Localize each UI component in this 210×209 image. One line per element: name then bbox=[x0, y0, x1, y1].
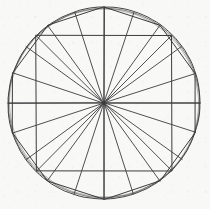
spoke-225deg bbox=[36, 103, 104, 171]
spoke-54deg bbox=[104, 25, 160, 103]
spoke-342deg bbox=[104, 103, 196, 132]
spoke-108deg bbox=[75, 12, 104, 103]
spoke-72deg bbox=[104, 12, 134, 103]
spoke-135deg bbox=[36, 35, 104, 103]
spoke-288deg bbox=[104, 103, 133, 194]
spoke-216deg bbox=[26, 103, 104, 159]
spoke-144deg bbox=[26, 47, 104, 103]
spoke-198deg bbox=[12, 103, 104, 133]
spoke-36deg bbox=[104, 47, 182, 103]
spoke-315deg bbox=[104, 103, 172, 171]
spoke-45deg bbox=[104, 35, 172, 103]
spoke-234deg bbox=[48, 103, 104, 180]
spoke-162deg bbox=[13, 73, 104, 103]
geometric-figure bbox=[0, 0, 210, 209]
geometry-canvas bbox=[0, 0, 210, 209]
spoke-126deg bbox=[48, 25, 104, 103]
spoke-306deg bbox=[104, 103, 160, 181]
spoke-324deg bbox=[104, 103, 182, 159]
spoke-252deg bbox=[74, 103, 104, 194]
spoke-18deg bbox=[104, 74, 195, 103]
